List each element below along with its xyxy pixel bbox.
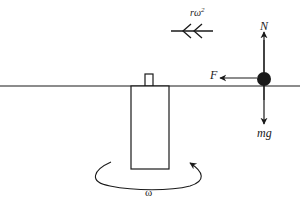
normal-force-label: N [260,20,268,32]
friction-force-label: F [210,69,217,81]
vertical-shaft [131,86,169,169]
diagram-canvas: N F mg rω2 ω [0,0,300,207]
weight-label: mg [257,127,272,139]
particle [257,72,271,86]
centripetal-acceleration-label: rω2 [190,7,204,18]
angular-velocity-label: ω [145,187,152,198]
centripetal-exponent: 2 [201,6,205,14]
shaft-cap [145,74,153,86]
diagram-svg [0,0,300,207]
acceleration-arrow-icon [171,24,213,38]
centripetal-base: rω [190,7,201,18]
